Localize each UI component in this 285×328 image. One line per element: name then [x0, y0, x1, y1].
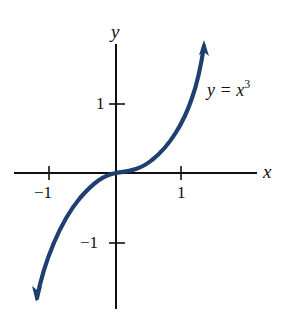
curve-equation-label: y = x3 — [207, 78, 250, 99]
equation-text: y = x — [207, 80, 244, 100]
y-axis-label: y — [111, 22, 119, 41]
x-axis-label: x — [263, 162, 271, 181]
plot-canvas — [0, 0, 285, 328]
x-tick-label-neg1: −1 — [34, 184, 52, 201]
y-tick-label-1: 1 — [96, 95, 105, 112]
cubic-function-graph: y x −1 1 1 −1 y = x3 — [0, 0, 285, 328]
equation-exponent: 3 — [244, 77, 250, 91]
y-tick-label-neg1: −1 — [80, 234, 98, 251]
x-tick-label-1: 1 — [177, 184, 186, 201]
